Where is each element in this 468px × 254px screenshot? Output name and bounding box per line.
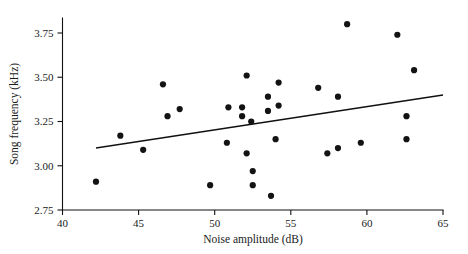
y-axis-title: Song frequency (kHz) [8,63,21,165]
data-points-group [93,21,417,199]
y-axis-tick-labels: 2.753.003.253.503.75 [34,27,54,216]
x-tick-label: 50 [209,217,221,229]
scatter-plot-figure: 2.753.003.253.503.75 404550556065 Noise … [0,0,468,254]
data-point [117,133,123,139]
data-point [411,67,417,73]
data-point [403,136,409,142]
data-point [164,113,170,119]
y-tick-label: 3.25 [34,115,54,127]
data-point [344,21,350,27]
data-point [324,150,330,156]
data-point [248,118,254,124]
data-point [224,140,230,146]
x-tick-label: 60 [361,217,373,229]
x-tick-label: 40 [57,217,69,229]
data-point [403,113,409,119]
data-point [335,94,341,100]
data-point [276,102,282,108]
data-point [394,32,400,38]
data-point [239,113,245,119]
data-point [250,168,256,174]
data-point [268,193,274,199]
x-axis-title: Noise amplitude (dB) [203,233,303,246]
data-point [265,94,271,100]
data-point [244,150,250,156]
x-axis-tick-labels: 404550556065 [57,217,449,229]
y-tick-label: 3.50 [34,71,54,83]
data-point [335,145,341,151]
plot-canvas: 2.753.003.253.503.75 404550556065 Noise … [0,0,468,254]
x-tick-label: 65 [438,217,450,229]
data-point [140,147,146,153]
x-tick-label: 55 [285,217,297,229]
y-tick-label: 3.00 [34,160,54,172]
data-point [276,79,282,85]
regression-line [96,95,443,148]
data-point [315,85,321,91]
data-point [250,182,256,188]
data-point [239,104,245,110]
y-tick-label: 2.75 [34,204,54,216]
data-point [265,108,271,114]
data-point [225,104,231,110]
data-point [93,179,99,185]
x-tick-label: 45 [133,217,145,229]
x-axis-ticks [63,210,444,215]
y-tick-label: 3.75 [34,27,54,39]
data-point [177,106,183,112]
data-point [272,136,278,142]
data-point [358,140,364,146]
data-point [160,81,166,87]
y-axis-ticks [58,33,63,210]
data-point [244,72,250,78]
data-point [207,182,213,188]
